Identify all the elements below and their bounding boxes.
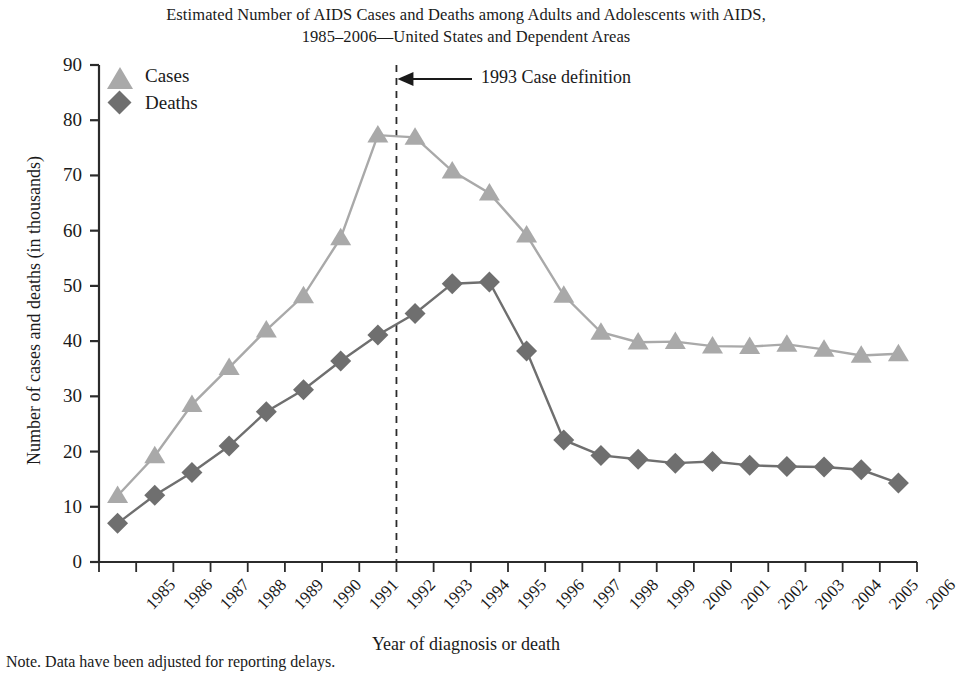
y-axis-tick-label: 30 (42, 386, 82, 405)
data-point-deaths-1990 (293, 379, 314, 400)
data-point-deaths-1999 (628, 449, 649, 470)
data-point-deaths-1995 (479, 272, 500, 293)
y-axis-tick-label: 90 (42, 55, 82, 74)
y-axis-tick-label: 60 (42, 221, 82, 240)
data-point-deaths-1985 (107, 513, 128, 534)
data-point-deaths-1987 (181, 462, 202, 483)
data-point-cases-1992 (367, 125, 388, 143)
data-point-cases-1997 (553, 285, 574, 303)
data-point-cases-1995 (479, 183, 500, 201)
data-point-cases-1986 (144, 446, 165, 464)
data-point-deaths-1991 (330, 350, 351, 371)
data-point-cases-2000 (665, 332, 686, 350)
data-point-deaths-1992 (367, 325, 388, 346)
data-point-deaths-2001 (702, 451, 723, 472)
data-point-deaths-2002 (739, 455, 760, 476)
data-point-cases-1990 (293, 286, 314, 304)
y-axis-tick-label: 10 (42, 497, 82, 516)
y-axis-tick-label: 20 (42, 442, 82, 461)
y-axis-tick-label: 70 (42, 165, 82, 184)
data-point-cases-2006 (888, 344, 909, 362)
left-arrow-icon (397, 72, 413, 86)
data-point-deaths-1996 (516, 341, 537, 362)
data-point-deaths-2006 (888, 473, 909, 494)
data-point-deaths-2003 (776, 456, 797, 477)
y-axis-tick-label: 0 (42, 552, 82, 571)
y-axis-tick-label: 40 (42, 331, 82, 350)
data-point-cases-1991 (330, 228, 351, 246)
y-axis-tick-label: 80 (42, 110, 82, 129)
data-point-cases-2003 (776, 334, 797, 352)
y-axis-tick-label: 50 (42, 276, 82, 295)
series-line-deaths (118, 282, 899, 523)
data-point-deaths-1997 (553, 429, 574, 450)
data-point-deaths-2005 (851, 459, 872, 480)
data-point-deaths-2004 (814, 457, 835, 478)
data-point-deaths-1986 (144, 485, 165, 506)
y-axis-title: Number of cases and deaths (in thousands… (24, 91, 45, 531)
chart-footnote: Note. Data have been adjusted for report… (6, 652, 335, 671)
data-point-deaths-1998 (590, 445, 611, 466)
data-point-deaths-2000 (665, 453, 686, 474)
